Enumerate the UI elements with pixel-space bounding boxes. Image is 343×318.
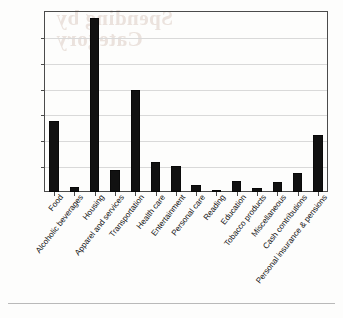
page-divider-rule: [8, 303, 335, 304]
x-axis-labels: FoodAlcoholic beveragesHousingApparel an…: [44, 193, 328, 313]
gridline: [45, 90, 327, 91]
gridline: [45, 115, 327, 116]
gridline: [45, 167, 327, 168]
y-axis-tick-mark: [41, 141, 45, 142]
chart-figure: Spending by Category $0$2,000$4,000$6,00…: [0, 0, 343, 318]
y-axis-tick-mark: [41, 38, 45, 39]
gridline: [45, 38, 327, 39]
plot-area: $0$2,000$4,000$6,000$8,000$10,000$12,000…: [44, 11, 328, 192]
y-axis-tick-mark: [41, 90, 45, 91]
gridline: [45, 64, 327, 65]
y-axis-tick-mark: [41, 64, 45, 65]
x-axis-category-label: Food: [47, 193, 65, 213]
gridline: [45, 141, 327, 142]
y-axis-tick-mark: [41, 167, 45, 168]
y-axis-tick-mark: [41, 115, 45, 116]
